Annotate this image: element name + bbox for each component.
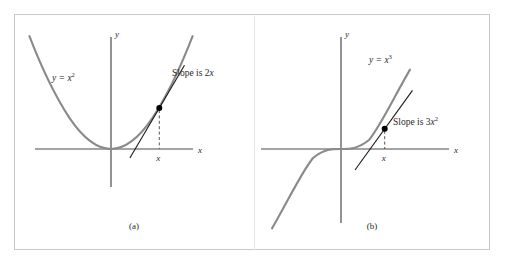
x-tick-label-b: x bbox=[381, 153, 386, 163]
curve-label-a: y = x2 bbox=[51, 71, 75, 83]
panel-caption-b: (b) bbox=[253, 221, 491, 231]
panel-caption-a: (a) bbox=[15, 221, 253, 231]
x-axis-label-b: x bbox=[453, 145, 458, 155]
tangency-point-b bbox=[382, 126, 388, 132]
x-axis-label-a: x bbox=[197, 145, 202, 155]
panel-b-cubic: y x x y = x3 Slope is 3x2 (b) bbox=[253, 15, 491, 251]
panel-a-parabola: y x x y = x2 Slope is 2x (a) bbox=[15, 15, 253, 251]
y-axis-label-a: y bbox=[114, 29, 119, 39]
tangent-line-a bbox=[130, 65, 185, 158]
figure-frame: y x x y = x2 Slope is 2x (a) bbox=[14, 14, 490, 250]
figure-root: y x x y = x2 Slope is 2x (a) bbox=[0, 0, 505, 267]
x-tick-label-a: x bbox=[155, 153, 160, 163]
slope-label-b: Slope is 3x2 bbox=[393, 115, 438, 127]
curve-label-b: y = x3 bbox=[368, 53, 393, 65]
y-axis-label-b: y bbox=[344, 29, 349, 39]
tangency-point-a bbox=[156, 105, 162, 111]
slope-label-a: Slope is 2x bbox=[172, 68, 214, 78]
